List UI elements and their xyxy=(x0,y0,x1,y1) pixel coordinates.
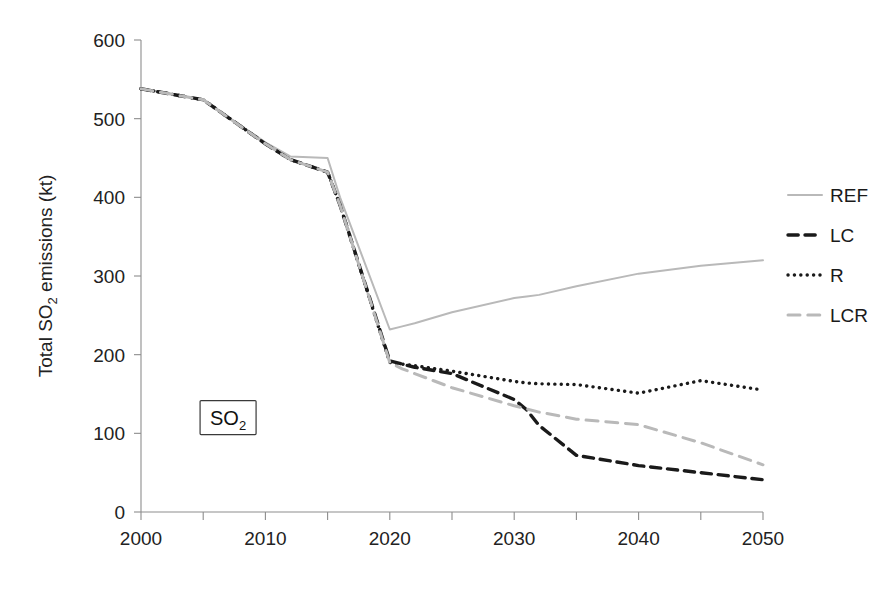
line-chart: 0100200300400500600200020102020203020402… xyxy=(0,0,892,593)
legend-label-ref: REF xyxy=(830,185,868,206)
series-line-r xyxy=(141,89,763,393)
y-tick-label: 400 xyxy=(93,187,125,208)
legend-item-r[interactable]: R xyxy=(788,265,844,286)
chart-figure: 0100200300400500600200020102020203020402… xyxy=(0,0,892,593)
x-tick-label: 2030 xyxy=(493,528,535,549)
y-tick-label: 100 xyxy=(93,423,125,444)
annotations: SO2 xyxy=(200,401,256,435)
legend-label-lc: LC xyxy=(830,225,854,246)
y-tick-label: 500 xyxy=(93,109,125,130)
svg-text:Total SO2 emissions (kt): Total SO2 emissions (kt) xyxy=(35,175,60,378)
legend-label-r: R xyxy=(830,265,844,286)
y-axis-title: Total SO2 emissions (kt) xyxy=(35,175,60,378)
chart-legend: REFLCRLCR xyxy=(788,185,868,326)
x-tick-label: 2040 xyxy=(617,528,659,549)
legend-item-ref[interactable]: REF xyxy=(788,185,868,206)
x-tick-label: 2010 xyxy=(244,528,286,549)
series-line-ref xyxy=(141,89,763,330)
x-tick-label: 2050 xyxy=(742,528,784,549)
legend-label-lcr: LCR xyxy=(830,305,868,326)
y-tick-label: 200 xyxy=(93,345,125,366)
axes: 0100200300400500600200020102020203020402… xyxy=(35,30,784,549)
x-tick-label: 2020 xyxy=(369,528,411,549)
y-tick-label: 600 xyxy=(93,30,125,51)
x-tick-label: 2000 xyxy=(120,528,162,549)
legend-item-lc[interactable]: LC xyxy=(788,225,854,246)
y-tick-label: 300 xyxy=(93,266,125,287)
legend-item-lcr[interactable]: LCR xyxy=(788,305,868,326)
y-tick-label: 0 xyxy=(114,502,125,523)
